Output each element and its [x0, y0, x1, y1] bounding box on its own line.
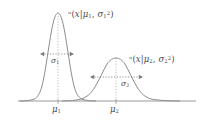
curve-1-distribution-label: ᵊ(x|μ1, σ12)	[68, 9, 114, 19]
sigma2-label: σ2	[121, 79, 129, 88]
mu2-subscript: 2	[116, 108, 119, 114]
sigma1-label: σ1	[51, 56, 59, 65]
curve-2-distribution-label: ᵊ(x|μ2, σ22)	[129, 54, 175, 64]
mu1-axis-label: μ1	[52, 104, 61, 114]
gaussian-distributions-figure: ᵊ(x|μ1, σ12) ᵊ(x|μ2, σ22) σ1 σ2 μ1 μ2	[0, 0, 211, 120]
sigma2-arrow	[90, 75, 143, 79]
mu2-axis-label: μ2	[110, 104, 119, 114]
paren-close-1: )	[110, 9, 113, 19]
mu1-subscript: 1	[58, 108, 61, 114]
sigma2-subscript: 2	[126, 83, 129, 88]
paren-close-2: )	[171, 54, 174, 64]
sigma1-subscript: 1	[56, 60, 59, 65]
